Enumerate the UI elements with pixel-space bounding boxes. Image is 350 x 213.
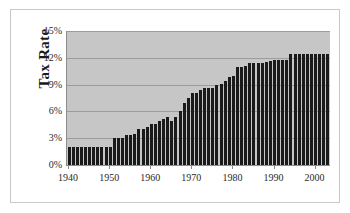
bar [117,138,120,165]
bar [113,138,116,165]
bar [133,134,136,165]
x-tick-label: 1980 [212,172,252,183]
x-tick-mark [274,166,275,169]
bar [100,147,103,165]
bar [289,54,292,165]
bar [154,124,157,165]
x-tick-label: 1960 [130,172,170,183]
chart-figure: Tax Rate 0%3%6%9%12%15% 1940195019601970… [0,0,350,213]
x-tick-mark [150,166,151,169]
y-tick-label: 6% [30,106,62,116]
bar [125,135,128,165]
y-tick-label: 9% [30,80,62,90]
bar [137,129,140,165]
bar [170,121,173,165]
x-tick-label: 1970 [171,172,211,183]
bar [129,135,132,165]
bar [150,124,153,165]
bar [166,117,169,165]
bar [306,54,309,165]
x-tick-mark [191,166,192,169]
bar-series [67,31,330,165]
x-tick-mark [315,166,316,169]
bar [294,54,297,165]
x-axis-tick-marks [66,166,329,170]
bar [207,88,210,165]
bar [76,147,79,165]
bar [298,54,301,165]
bar [232,76,235,165]
bar [310,54,313,165]
bar [72,147,75,165]
bar [269,61,272,165]
bar [261,63,264,165]
bar [105,147,108,165]
bar [240,67,243,165]
bar [158,121,161,165]
x-tick-mark [109,166,110,169]
y-tick-label: 3% [30,133,62,143]
bar [84,147,87,165]
bar [318,54,321,165]
bar [322,54,325,165]
x-tick-label: 1940 [48,172,88,183]
bar [248,63,251,165]
bar [183,103,186,165]
bar [257,63,260,165]
bar [302,54,305,165]
bar [92,147,95,165]
x-axis-tick-labels: 1940195019601970198019902000 [66,172,329,186]
bar [96,147,99,165]
x-tick-label: 1950 [89,172,129,183]
x-tick-mark [68,166,69,169]
bar [179,111,182,165]
y-tick-label: 12% [30,53,62,63]
x-tick-label: 1990 [254,172,294,183]
plot-area [66,31,330,166]
bar [277,60,280,165]
bar [88,147,91,165]
y-axis-tick-labels: 0%3%6%9%12%15% [28,31,62,165]
y-tick-label: 0% [30,160,62,170]
bar [187,98,190,165]
bar [146,127,149,165]
bar [195,93,198,165]
bar [174,117,177,165]
bar [109,147,112,165]
bar [211,88,214,165]
bar [326,54,329,165]
bar [142,129,145,165]
bar [224,81,227,165]
bar [252,63,255,165]
x-tick-mark [232,166,233,169]
bar [203,88,206,165]
bar [236,67,239,165]
bar [244,66,247,165]
bar [162,119,165,165]
x-tick-label: 2000 [295,172,335,183]
y-tick-label: 15% [30,26,62,36]
bar [228,77,231,165]
bar [191,93,194,165]
bar [121,138,124,165]
bar [220,84,223,165]
bar [273,60,276,165]
bar [314,54,317,165]
bar [215,85,218,165]
bar [68,147,71,165]
bar [80,147,83,165]
bar [281,60,284,165]
bar [265,62,268,165]
bar [199,90,202,165]
bar [285,60,288,165]
